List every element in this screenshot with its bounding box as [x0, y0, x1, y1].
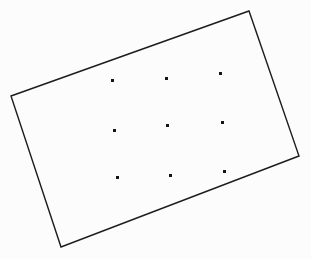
- figure-svg: [0, 0, 311, 259]
- grid-dot-r1c1: [111, 79, 114, 82]
- grid-dot-r3c1: [116, 176, 119, 179]
- grid-dot-r2c1: [113, 129, 116, 132]
- figure-canvas: [0, 0, 311, 259]
- canvas-background: [0, 0, 311, 259]
- grid-dot-r1c2: [165, 77, 168, 80]
- grid-dot-r3c3: [223, 170, 226, 173]
- grid-dot-r2c3: [221, 121, 224, 124]
- grid-dot-r1c3: [219, 72, 222, 75]
- grid-dot-r2c2: [166, 124, 169, 127]
- grid-dot-r3c2: [169, 174, 172, 177]
